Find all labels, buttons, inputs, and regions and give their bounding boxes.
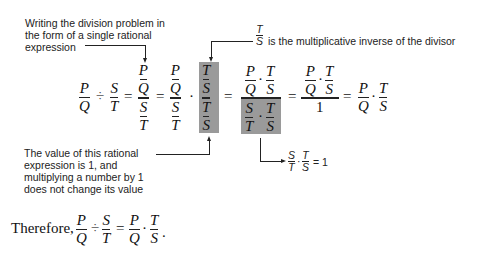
numerator: S [110, 80, 118, 97]
denominator: Q [170, 80, 181, 97]
denominator: Q [79, 98, 90, 115]
denominator: S [302, 162, 309, 173]
leader-line [211, 41, 253, 42]
equals-sign: = [116, 220, 124, 237]
denominator: S [150, 230, 158, 247]
denominator: Q [305, 81, 316, 98]
numerator: S [102, 212, 110, 229]
numerator: P [77, 212, 86, 229]
numerator: T [379, 80, 387, 97]
fraction-t-over-s: T S [266, 100, 274, 135]
fraction-s-over-t: S T [110, 80, 118, 115]
fraction-p-over-q: P Q [358, 80, 369, 115]
note-multiplicative-inverse: is the multiplicative inverse of the div… [268, 35, 455, 47]
denominator: Q [76, 230, 87, 247]
fraction-t-over-s: T S [379, 80, 387, 115]
arrow-up-icon [207, 136, 211, 141]
note-line: expression is 1, and [24, 159, 144, 171]
denominator: T [171, 117, 179, 134]
denominator: S [202, 80, 210, 97]
dot-operator: · [297, 155, 301, 167]
denominator: T [139, 117, 147, 134]
fraction-t-over-s: T S [302, 150, 309, 173]
note-line: the form of a single rational [25, 29, 165, 41]
numerator: T [325, 63, 333, 80]
denominator: S [325, 81, 333, 98]
denominator-one: 1 [316, 99, 324, 116]
divide-sign: ÷ [91, 220, 99, 237]
conclusion-prefix: Therefore, [11, 220, 74, 237]
denominator: T [102, 230, 110, 247]
numerator: P [130, 212, 139, 229]
complex-fraction-inverse: T S T S [202, 62, 210, 134]
note-line: does not change its value [24, 183, 144, 195]
fraction-p-over-q: P Q [245, 63, 256, 98]
equals-sign: = [156, 88, 164, 105]
denominator: T [110, 98, 118, 115]
numerator: S [140, 99, 148, 116]
note-value-is-one: The value of this rational expression is… [24, 147, 144, 195]
dot-operator: · [258, 108, 263, 125]
note-line: The value of this rational [24, 147, 144, 159]
leader-line [145, 45, 146, 59]
leader-line [260, 138, 261, 161]
denominator: S [266, 81, 274, 98]
numerator: T [302, 150, 308, 161]
numerator: P [359, 80, 368, 97]
note-line: expression [25, 41, 165, 53]
numerator: T [266, 100, 274, 117]
note-line: multiplying a number by 1 [24, 171, 144, 183]
arrow-right-icon [281, 159, 286, 163]
dot-operator: · [258, 71, 263, 88]
fraction-p-over-q: P Q [76, 212, 87, 247]
complex-fraction-step1: P Q S T [138, 62, 149, 134]
equals-sign: = [288, 88, 296, 105]
leader-line [209, 140, 210, 155]
numerator: P [171, 62, 180, 79]
denominator: T [245, 118, 253, 135]
numerator: P [246, 63, 255, 80]
denominator: T [288, 162, 294, 173]
numerator: P [139, 62, 148, 79]
denominator: Q [138, 80, 149, 97]
denominator: Q [129, 230, 140, 247]
denominator: Q [245, 81, 256, 98]
dot-operator: · [189, 88, 194, 105]
fraction-s-over-t: S T [245, 100, 253, 135]
divide-sign: ÷ [96, 88, 104, 105]
fraction-t-over-s: T S [266, 63, 274, 98]
denominator: S [266, 118, 274, 135]
denominator: S [379, 98, 387, 115]
numerator: S [288, 150, 295, 161]
dot-operator: · [318, 71, 323, 88]
period: . [162, 224, 166, 241]
numerator: T [150, 212, 158, 229]
note-single-rational-expression: Writing the division problem in the form… [25, 17, 165, 53]
numerator: T [266, 63, 274, 80]
equals-sign: = [224, 88, 232, 105]
complex-fraction-step2: P Q S T [170, 62, 181, 134]
fraction-p-over-q: P Q [79, 80, 90, 115]
equals-sign: = [343, 88, 351, 105]
numerator: T [202, 62, 210, 79]
main-fraction-bar [241, 97, 281, 99]
dot-operator: · [371, 88, 376, 105]
numerator: P [306, 63, 315, 80]
fraction-s-over-t: S T [288, 150, 295, 173]
numerator: T [256, 24, 262, 35]
denominator: S [202, 117, 210, 134]
fraction-t-over-s: T S [325, 63, 333, 98]
fraction-p-over-q: P Q [305, 63, 316, 98]
leader-line [260, 161, 282, 162]
numerator: S [245, 100, 253, 117]
note-line: Writing the division problem in [25, 17, 165, 29]
note-inverse-fraction: T S [256, 24, 263, 47]
leader-line [156, 154, 210, 155]
fraction-t-over-s: T S [150, 212, 158, 247]
leader-line [85, 45, 146, 46]
equals-one: = 1 [313, 156, 328, 168]
denominator: S [256, 36, 263, 47]
numerator: P [80, 80, 89, 97]
equals-sign: = [124, 88, 132, 105]
numerator: T [202, 99, 210, 116]
